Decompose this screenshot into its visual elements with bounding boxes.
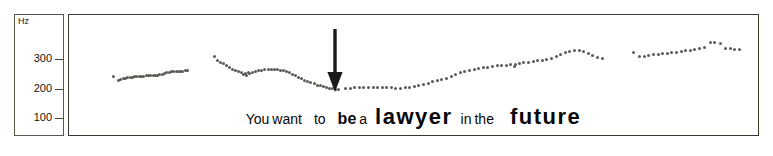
pitch-point (643, 55, 646, 58)
pitch-point (459, 71, 462, 74)
axis-tick-label-300: 300 (34, 53, 52, 64)
pitch-point (733, 48, 736, 51)
caption-word: a (359, 111, 367, 127)
down-arrow-icon (324, 28, 346, 94)
pitch-point (532, 60, 535, 63)
pitch-point (578, 49, 581, 52)
pitch-point (450, 75, 453, 78)
pitch-point (385, 86, 388, 89)
pitch-point (404, 86, 407, 89)
pitch-point (587, 52, 590, 55)
pitch-point (632, 51, 635, 54)
pitch-point (509, 63, 512, 66)
pitch-point (709, 41, 712, 44)
pitch-point (698, 47, 701, 50)
axis-tick-mark-200 (55, 89, 63, 90)
pitch-point (454, 73, 457, 76)
pitch-point (582, 50, 585, 53)
pitch-point (647, 54, 650, 57)
pitch-point (362, 86, 365, 89)
pitch-point (445, 77, 448, 80)
pitch-point (496, 64, 499, 67)
pitch-point (309, 81, 312, 84)
pitch-point (564, 51, 567, 54)
pitch-point (263, 68, 266, 71)
pitch-point (399, 87, 402, 90)
pitch-point (417, 84, 420, 87)
axis-tick-mark-100 (55, 118, 63, 119)
pitch-point (638, 55, 641, 58)
pitch-point (427, 82, 430, 85)
pitch-point (394, 87, 397, 90)
pitch-point (652, 53, 655, 56)
caption-word: to (314, 111, 326, 127)
caption-word: lawyer (375, 104, 453, 130)
pitch-point (684, 49, 687, 52)
pitch-point (353, 86, 356, 89)
pitch-point (349, 87, 352, 90)
utterance-caption: Youwanttobealawyerinthefuture (69, 104, 758, 130)
pitch-point (486, 66, 489, 69)
pitch-point (724, 47, 727, 50)
axis-tick-label-100: 100 (34, 112, 52, 123)
pitch-point (112, 75, 115, 78)
pitch-point (358, 86, 361, 89)
pitch-contour-plot: Youwanttobealawyerinthefuture (68, 14, 759, 136)
pitch-point (473, 68, 476, 71)
pitch-point (513, 65, 516, 68)
pitch-point (555, 55, 558, 58)
pitch-point (186, 69, 189, 72)
figure-root: Hz 300 200 100 Youwanttobealawyerinthefu… (0, 0, 773, 156)
pitch-point (372, 86, 375, 89)
pitch-point (408, 86, 411, 89)
caption-word: want (272, 111, 302, 127)
pitch-point (541, 59, 544, 62)
pitch-point (463, 70, 466, 73)
pitch-point (477, 67, 480, 70)
pitch-point (500, 64, 503, 67)
pitch-point (680, 50, 683, 53)
pitch-point (738, 48, 741, 51)
pitch-point (670, 51, 673, 54)
pitch-point (527, 61, 530, 64)
pitch-point (482, 66, 485, 69)
pitch-point (367, 86, 370, 89)
pitch-point (381, 86, 384, 89)
pitch-point (729, 47, 732, 50)
pitch-point (422, 83, 425, 86)
pitch-point (436, 79, 439, 82)
pitch-point (468, 69, 471, 72)
caption-word: the (474, 111, 493, 127)
axis-tick-label-200: 200 (34, 83, 52, 94)
pitch-point (568, 50, 571, 53)
pitch-point (713, 41, 716, 44)
pitch-point (693, 48, 696, 51)
pitch-point (213, 55, 216, 58)
pitch-point (675, 51, 678, 54)
pitch-point (591, 54, 594, 57)
pitch-point (601, 57, 604, 60)
caption-word: in (461, 111, 472, 127)
pitch-point (522, 61, 525, 64)
pitch-point (703, 46, 706, 49)
pitch-point (559, 53, 562, 56)
pitch-point (390, 86, 393, 89)
caption-word: You (246, 111, 270, 127)
caption-word: be (338, 110, 357, 128)
unit-label: Hz (18, 16, 29, 26)
pitch-point (550, 57, 553, 60)
pitch-point (518, 62, 521, 65)
pitch-point (657, 53, 660, 56)
pitch-point (545, 58, 548, 61)
axis-panel: Hz 300 200 100 (14, 14, 64, 136)
pitch-point (666, 52, 669, 55)
pitch-point (491, 65, 494, 68)
pitch-point (689, 49, 692, 52)
pitch-point (536, 59, 539, 62)
pitch-point (661, 52, 664, 55)
axis-tick-mark-300 (55, 59, 63, 60)
pitch-point (440, 78, 443, 81)
pitch-point (719, 42, 722, 45)
pitch-point (596, 56, 599, 59)
pitch-point (431, 80, 434, 83)
